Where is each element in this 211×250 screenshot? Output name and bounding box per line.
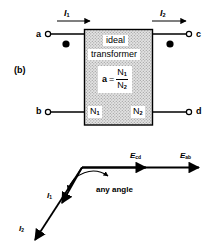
- phasor-label-i2: I2: [19, 225, 24, 234]
- terminal-node-a: [45, 31, 50, 36]
- turns-ratio-equals: =: [109, 74, 114, 84]
- turns-ratio-numerator: N1: [116, 68, 128, 78]
- figure-label: (b): [14, 66, 26, 75]
- polarity-dot-left-icon: [62, 40, 69, 47]
- phasor-i1-subscript: 1: [49, 195, 52, 200]
- terminal-node-b: [45, 109, 50, 114]
- turns-ratio-symbol: a: [102, 74, 107, 84]
- turns-ratio-denominator: N2: [116, 81, 128, 91]
- terminal-node-d: [186, 109, 191, 114]
- terminal-label-d: d: [196, 107, 202, 116]
- terminal-label-a: a: [36, 30, 41, 39]
- transformer-title-line2: transformer: [88, 49, 140, 60]
- transformer-title-line1: ideal: [103, 35, 128, 46]
- terminal-node-c: [186, 31, 191, 36]
- angle-annotation: any angle: [96, 186, 133, 194]
- turns-ratio-formula: a = N1 N2: [98, 66, 132, 93]
- phasor-eab-subscript: ab: [185, 155, 191, 160]
- terminal-label-c: c: [196, 30, 201, 39]
- phasor-label-ecd: Ecd: [130, 152, 141, 161]
- phasor-ecd-subscript: cd: [135, 155, 141, 160]
- phasor-label-i1: I1: [47, 192, 52, 201]
- phasor-i2-subscript: 2: [21, 228, 24, 233]
- phasor-label-eab: Eab: [180, 152, 191, 161]
- current-i1-subscript: 1: [67, 12, 70, 18]
- turns-ratio-denominator-subscript: 2: [124, 84, 127, 90]
- current-i2-subscript: 2: [163, 12, 166, 18]
- winding-label-n2: N2: [131, 106, 145, 118]
- terminal-label-b: b: [36, 107, 42, 116]
- current-label-i2: I2: [160, 9, 166, 19]
- polarity-dot-right-icon: [166, 40, 173, 47]
- phasor-diagram: [35, 168, 199, 241]
- turns-ratio-fraction: N1 N2: [116, 68, 128, 91]
- winding-label-n1: N1: [88, 106, 102, 118]
- winding-n2-subscript: 2: [140, 110, 143, 116]
- current-label-i1: I1: [64, 9, 70, 19]
- winding-n1-subscript: 1: [97, 110, 100, 116]
- turns-ratio-numerator-subscript: 1: [124, 71, 127, 77]
